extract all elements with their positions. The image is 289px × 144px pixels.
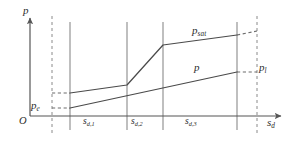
segment-sd3-label-sub: d,3 [189, 120, 197, 127]
p-sat-label: psat [192, 25, 206, 36]
p-e-label: pe [31, 100, 40, 111]
curve-p-sat-dashed-right [237, 31, 257, 35]
segment-sd1-label-sub: d,1 [87, 120, 95, 127]
segment-sd3-label: sd,3 [185, 117, 197, 127]
curve-p [52, 72, 257, 108]
origin-label: O [19, 116, 27, 127]
x-axis-label-sub: d [271, 122, 275, 130]
axes [30, 18, 281, 116]
segment-sd2-label-sub: d,2 [135, 120, 143, 127]
p-l-label-sub: l [265, 67, 267, 75]
p-label: p [194, 62, 200, 73]
diagram-canvas [0, 0, 289, 144]
curve-p-sat-line [70, 35, 237, 93]
p-sat-label-sub: sat [198, 30, 207, 38]
segment-sd1-label: sd,1 [83, 117, 95, 127]
curve-p-sat [52, 31, 257, 93]
pressure-saturation-diagram: p O sd pe psat p pl sd,1 sd,2 sd,3 [0, 0, 289, 144]
p-l-label: pl [259, 62, 267, 73]
p-e-label-sub: e [37, 105, 40, 113]
x-axis-label: sd [267, 117, 275, 128]
segment-sd2-label: sd,2 [131, 117, 143, 127]
y-axis-label: p [23, 5, 29, 16]
